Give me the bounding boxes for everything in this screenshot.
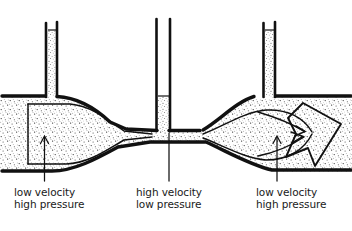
- annotation-right-line1: low velocity: [256, 186, 317, 198]
- annotation-left: low velocity high pressure: [14, 186, 84, 210]
- annotation-middle-line1: high velocity: [136, 186, 202, 198]
- annotation-right-line2: high pressure: [256, 198, 326, 210]
- venturi-diagram: low velocity high pressure high velocity…: [0, 0, 352, 231]
- manometer-menisci: [48, 30, 274, 96]
- annotation-middle: high velocity low pressure: [136, 186, 202, 210]
- venturi-figure-svg: low velocity high pressure high velocity…: [0, 0, 352, 231]
- annotation-left-line2: high pressure: [14, 198, 84, 210]
- annotation-left-line1: low velocity: [14, 186, 75, 198]
- annotation-middle-line2: low pressure: [136, 198, 201, 210]
- annotation-right: low velocity high pressure: [256, 186, 326, 210]
